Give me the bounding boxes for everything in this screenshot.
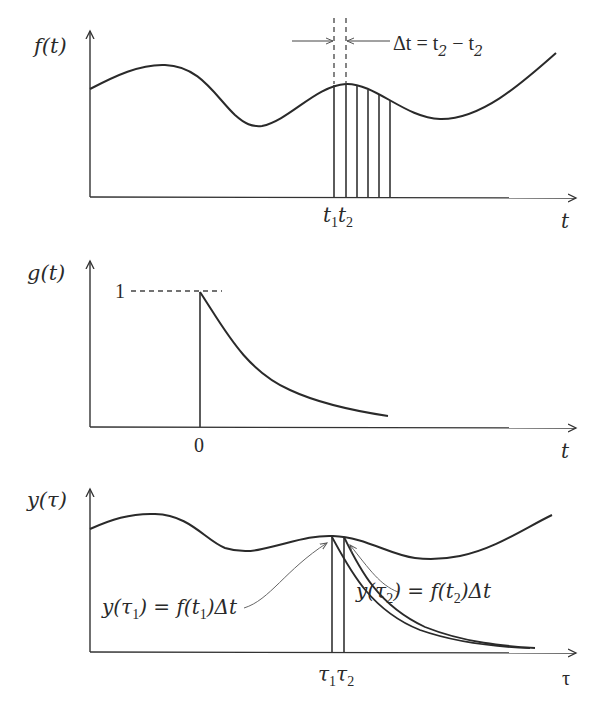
f-tick-t1-t2: t1t2: [323, 203, 353, 230]
y-x-axis: [90, 652, 576, 653]
panel-f: f(t) t Δt = t2 − t2 t1t2: [32, 18, 576, 233]
convolution-diagram: f(t) t Δt = t2 − t2 t1t2 g(t) 1 0 t: [0, 0, 601, 709]
y-annotation-left: y(τ1) = f(t1)Δt: [101, 595, 238, 622]
panel-y: y(τ) τ y(τ1) = f(t1)Δt y(τ2) = f(t2)Δt τ…: [26, 488, 576, 689]
g-ylabel: g(t): [27, 261, 65, 285]
y-annotation-right: y(τ2) = f(t2)Δt: [355, 579, 492, 606]
f-xlabel: t: [561, 209, 570, 233]
g-xlabel: t: [561, 439, 570, 463]
g-origin-label: 0: [194, 434, 204, 456]
y-pointer-left: [244, 543, 327, 608]
f-sample-lines: [334, 84, 390, 197]
g-x-axis: [90, 427, 576, 428]
f-ylabel: f(t): [32, 34, 67, 58]
g-level-label: 1: [115, 280, 125, 302]
y-ylabel: y(τ): [26, 488, 67, 512]
delta-t-marker: [292, 18, 390, 84]
panel-g: g(t) 1 0 t: [27, 261, 576, 463]
f-x-axis: [90, 197, 576, 198]
y-tick-tau1-tau2: τ1τ2: [318, 662, 354, 689]
y-xlabel: τ: [562, 667, 570, 689]
y-curve: [90, 514, 552, 559]
g-decay-curve: [200, 292, 388, 416]
f-curve: [90, 53, 556, 126]
delta-t-annotation: Δt = t2 − t2: [393, 32, 483, 59]
